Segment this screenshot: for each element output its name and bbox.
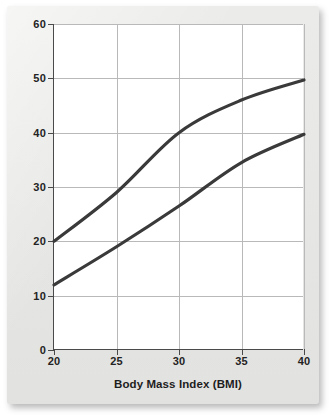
- y-axis-tick-label: 40: [33, 127, 46, 139]
- x-axis-tick-label: 30: [173, 355, 186, 367]
- plot-area: 01020304050602025303540: [53, 24, 303, 350]
- figure-root: 01020304050602025303540 Body Mass Index …: [0, 0, 329, 416]
- curves-layer: [54, 24, 304, 350]
- y-axis-tick-label: 30: [33, 181, 46, 193]
- x-axis-tick-label: 25: [110, 355, 123, 367]
- data-line-lower-curve: [54, 134, 304, 284]
- y-axis-tick-label: 10: [33, 290, 46, 302]
- x-axis-tick-label: 40: [298, 355, 311, 367]
- plot-inner: 01020304050602025303540: [54, 24, 303, 349]
- y-axis-tick-label: 0: [40, 344, 46, 356]
- y-axis-tick-label: 50: [33, 72, 46, 84]
- gridline-vertical: [304, 24, 305, 349]
- x-axis-tick-label: 35: [235, 355, 248, 367]
- chart-card: 01020304050602025303540 Body Mass Index …: [7, 6, 319, 404]
- x-axis-title: Body Mass Index (BMI): [53, 378, 303, 390]
- y-axis-tick-label: 60: [33, 18, 46, 30]
- x-axis-tick-label: 20: [48, 355, 61, 367]
- y-axis-tick-label: 20: [33, 235, 46, 247]
- data-line-upper-curve: [54, 80, 304, 241]
